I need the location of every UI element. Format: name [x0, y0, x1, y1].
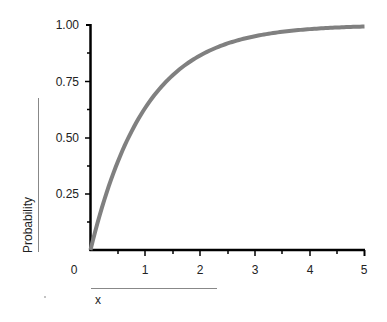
y-tick-label-1.00: 1.00: [56, 18, 80, 32]
y-tick-label-0.50: 0.50: [56, 131, 80, 145]
x-tick-label-3: 3: [252, 263, 259, 277]
cdf-curve: [91, 27, 365, 250]
stray-dot: [44, 296, 46, 298]
y-tick-label-0.25: 0.25: [56, 187, 80, 201]
x-tick-label-5: 5: [361, 263, 368, 277]
x-tick-label-2: 2: [197, 263, 204, 277]
x-tick-label-0: 0: [71, 263, 78, 277]
y-tick-label-0.75: 0.75: [56, 75, 80, 89]
y-axis-title: Probability: [21, 197, 35, 253]
x-axis-title: x: [95, 293, 101, 307]
chart-canvas: 1.00 0.75 0.50 0.25 0 1 2 3 4 5 x Probab…: [0, 0, 387, 322]
x-tick-label-1: 1: [142, 263, 149, 277]
x-tick-label-4: 4: [307, 263, 314, 277]
